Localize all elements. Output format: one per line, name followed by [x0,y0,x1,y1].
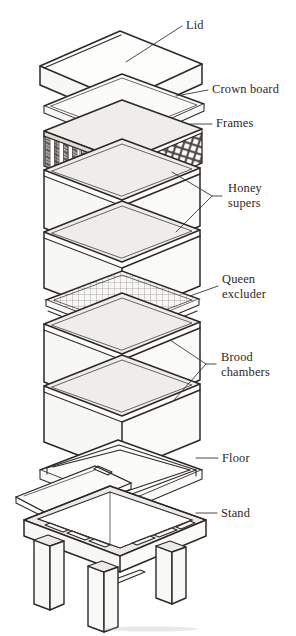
label-brood-chambers-line2: chambers [221,365,270,379]
label-honey-supers-line1: Honey [228,181,263,195]
label-honey-supers-line2: supers [228,196,261,210]
page-smudge [102,626,198,631]
hive-illustration: Lid Crown board Frames Honey supers Quee… [0,0,296,636]
label-queen-excluder-line2: excluder [222,287,267,301]
label-brood-chambers-line1: Brood [221,350,254,364]
label-queen-excluder-line1: Queen [222,272,255,286]
label-frames: Frames [216,116,254,130]
label-floor: Floor [222,451,250,465]
label-stand: Stand [221,506,251,520]
beehive-exploded-diagram: Lid Crown board Frames Honey supers Quee… [0,0,296,636]
label-crown-board: Crown board [212,82,280,96]
label-lid: Lid [186,18,204,32]
